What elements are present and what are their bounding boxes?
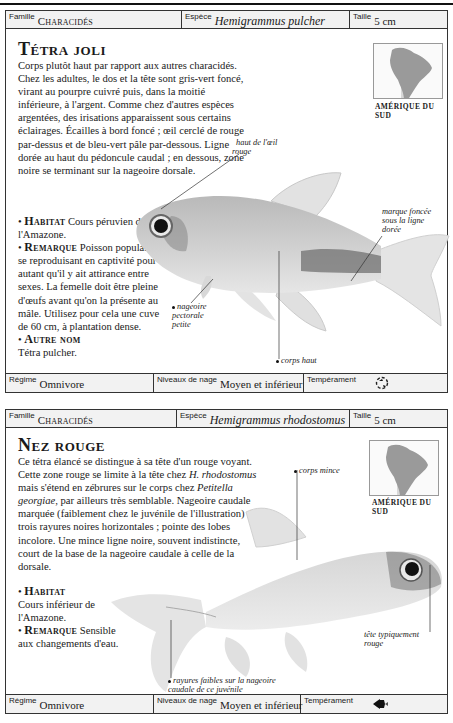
family-value: Characidés: [38, 15, 93, 27]
species-cell: Espèce Hemigrammus rhodostomus: [177, 410, 350, 427]
size-label: Taille: [353, 12, 371, 21]
family-cell: Famille Characidés: [6, 11, 182, 28]
species-title: Nez rouge: [18, 435, 105, 456]
species-label: Espèce: [185, 12, 212, 21]
species-label: Espèce: [180, 411, 207, 420]
swim-level-label: Niveaux de nage: [157, 375, 217, 384]
species-value: Hemigrammus rhodostomus: [210, 413, 345, 427]
swim-level-label: Niveaux de nage: [157, 696, 217, 705]
map-caption: AMÉRIQUE DU SUD: [375, 102, 447, 120]
card-footer: Régime Omnivore Niveaux de nage Moyen et…: [6, 373, 447, 392]
size-cell: Taille 5 cm: [350, 410, 447, 427]
hemigrammus-rhodostomus-illustration: [106, 492, 446, 697]
other-name-text: Tétra pulcher.: [18, 347, 77, 358]
temperament-label: Tempérament: [304, 696, 353, 705]
species-title: Tétra joli: [18, 39, 106, 60]
card-header: Famille Characidés Espèce Hemigrammus pu…: [6, 11, 447, 29]
callout-eye: haut de l'œil rouge: [232, 138, 292, 156]
habitat-label: Habitat: [24, 214, 65, 228]
other-name-section: • Autre nomTétra pulcher.: [18, 333, 163, 359]
diet-label: Régime: [9, 696, 37, 705]
bullet-dot: [172, 306, 175, 309]
diet-label: Régime: [9, 375, 37, 384]
diet-value: Omnivore: [40, 699, 85, 711]
size-value: 5 cm: [374, 414, 396, 426]
size-cell: Taille 5 cm: [350, 11, 447, 28]
diet-cell: Régime Omnivore: [6, 695, 154, 713]
range-map: [369, 440, 439, 496]
swim-level-value: Moyen et inférieur: [220, 699, 302, 711]
diet-cell: Régime Omnivore: [6, 374, 154, 392]
callout-slim-body: corps mince: [294, 466, 364, 475]
species-description: Corps plutôt haut par rapport aux autres…: [18, 59, 248, 177]
family-cell: Famille Characidés: [6, 410, 177, 427]
temperament-cell: Tempérament: [301, 695, 447, 713]
bullet-dot: [294, 470, 297, 473]
diet-value: Omnivore: [40, 378, 85, 390]
card-footer: Régime Omnivore Niveaux de nage Moyen et…: [6, 694, 447, 713]
species-card-nez-rouge: Famille Characidés Espèce Hemigrammus rh…: [5, 409, 448, 714]
callout-tail-stripes: rayures faibles sur la nageoire caudale …: [168, 676, 278, 694]
family-label: Famille: [9, 12, 35, 21]
south-america-map-icon: [374, 44, 443, 99]
bullet-dot: [276, 360, 279, 363]
size-value: 5 cm: [374, 15, 396, 27]
range-map: [373, 43, 443, 99]
south-america-map-icon: [370, 441, 439, 496]
shoaling-fish-icon: [371, 697, 389, 711]
family-label: Famille: [9, 411, 35, 420]
swim-level-cell: Niveaux de nage Moyen et inférieur: [154, 695, 301, 713]
description-text: Corps plutôt haut par rapport aux autres…: [18, 60, 244, 176]
remark-label: Remarque: [24, 623, 77, 637]
habitat-label: Habitat: [24, 584, 65, 598]
temperament-cell: Tempérament: [304, 374, 447, 392]
community-fish-icon: [374, 376, 390, 390]
swim-level-cell: Niveaux de nage Moyen et inférieur: [154, 374, 304, 392]
callout-body: corps haut: [276, 356, 346, 365]
species-value: Hemigrammus pulcher: [215, 14, 325, 28]
family-value: Characidés: [38, 414, 93, 426]
species-cell: Espèce Hemigrammus pulcher: [182, 11, 350, 28]
callout-dark-mark: marque foncée sous la ligne dorée: [382, 207, 442, 234]
temperament-label: Tempérament: [307, 375, 356, 384]
bullet-dot: [168, 680, 171, 683]
habitat-text: Cours inférieur de l'Amazone.: [18, 599, 95, 623]
page-top-rule: [0, 3, 453, 5]
callout-pectoral-fin: nageoire pectorale petite: [172, 302, 220, 329]
callout-red-head: tête typiquement rouge: [364, 630, 426, 648]
size-label: Taille: [353, 411, 371, 420]
species-card-tetra-joli: Famille Characidés Espèce Hemigrammus pu…: [5, 10, 448, 393]
remark-label: Remarque: [24, 240, 77, 254]
card-header: Famille Characidés Espèce Hemigrammus rh…: [6, 410, 447, 428]
other-name-label: Autre nom: [24, 332, 80, 346]
swim-level-value: Moyen et inférieur: [220, 378, 302, 390]
